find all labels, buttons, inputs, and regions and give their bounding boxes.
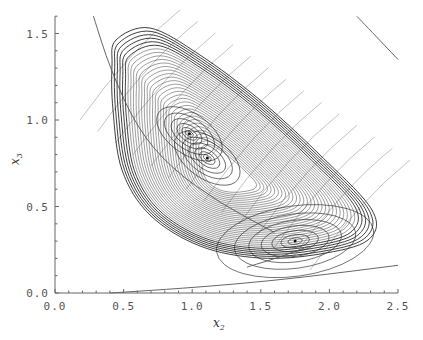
- y-axis-title: x3: [8, 153, 24, 165]
- x-axis-title: x2: [213, 316, 225, 332]
- x-tick-label: 0.0: [44, 300, 67, 313]
- x-tick-label: 2.0: [318, 300, 341, 313]
- fixed-point: [206, 157, 209, 160]
- x-tick-label: 1.5: [249, 300, 272, 313]
- y-tick-label: 1.5: [26, 28, 49, 41]
- y-tick-label: 1.0: [26, 114, 49, 127]
- orbit: [155, 84, 318, 226]
- nullcline-curves: [93, 16, 398, 293]
- fixed-point: [188, 132, 191, 135]
- orbit: [199, 141, 260, 195]
- fixed-point: [294, 240, 297, 243]
- x-tick-label: 2.5: [387, 300, 410, 313]
- flow-line: [222, 102, 322, 212]
- flow-line: [80, 10, 180, 120]
- y-tick-label: 0.5: [26, 201, 49, 214]
- tick-labels: 0.00.51.01.52.02.50.00.51.01.5: [26, 28, 409, 314]
- y-tick-label: 0.0: [26, 287, 49, 300]
- flow-line: [168, 68, 268, 178]
- phase-portrait-chart: 0.00.51.01.52.02.50.00.51.01.5 x2 x3: [0, 0, 423, 340]
- orbit-family: [80, 10, 410, 287]
- nullcline-curve: [110, 265, 398, 293]
- x-tick-label: 1.0: [181, 300, 204, 313]
- orbit: [123, 42, 362, 251]
- nullcline-curve: [357, 16, 398, 59]
- x-tick-label: 0.5: [112, 300, 135, 313]
